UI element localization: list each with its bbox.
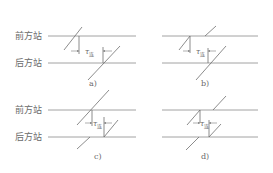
interval-time-diagram: 前方站 后方站 τ连 a) τ连 b) 前方站 后方站 <box>0 0 273 173</box>
panel-a: 前方站 后方站 τ连 a) <box>15 27 136 88</box>
train-line-1-arrival <box>186 137 199 150</box>
station-label-rear: 后方站 <box>15 131 42 142</box>
train-line-1-arrival <box>77 137 90 149</box>
panel-b: τ连 b) <box>162 26 258 88</box>
station-label-front: 前方站 <box>15 30 42 41</box>
panel-caption: c) <box>94 152 102 161</box>
panel-d: τ连 d) <box>162 96 258 161</box>
train-line-1 <box>179 36 190 50</box>
interval-label: τ连 <box>85 47 94 58</box>
interval-label: τ连 <box>93 119 102 130</box>
train-line-1-departure <box>205 26 216 36</box>
interval-label: τ连 <box>196 47 205 58</box>
interval-label: τ连 <box>200 119 209 130</box>
panel-caption: a) <box>89 79 97 88</box>
train-line-2 <box>209 124 221 137</box>
train-line-2 <box>104 120 118 137</box>
panel-c: 前方站 后方站 τ连 c) <box>15 90 136 161</box>
panel-caption: b) <box>201 79 209 88</box>
station-label-front: 前方站 <box>15 104 42 115</box>
panel-caption: d) <box>201 152 209 161</box>
train-line-1-departure <box>213 96 226 110</box>
station-label-rear: 后方站 <box>15 57 42 68</box>
